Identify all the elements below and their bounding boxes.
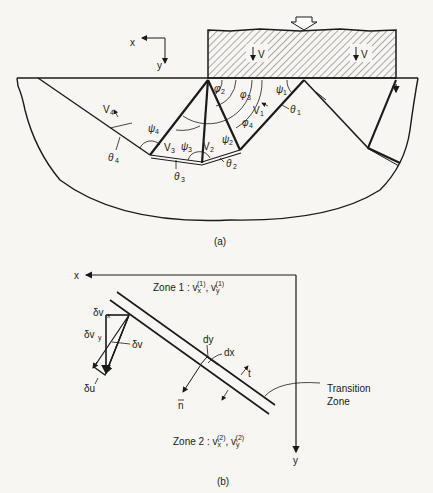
label-phi2: φ	[214, 83, 221, 94]
svg-text:1: 1	[297, 109, 301, 116]
axes-a: x y	[130, 37, 165, 71]
label-theta4: θ	[108, 152, 114, 163]
figure: V V x y	[0, 0, 433, 493]
label-t: t	[248, 368, 251, 379]
label-phi3: φ	[240, 89, 247, 100]
svg-text:4: 4	[115, 157, 119, 164]
svg-text:1: 1	[283, 89, 287, 96]
label-v3: V	[164, 142, 171, 153]
label-v2: V	[203, 141, 210, 152]
svg-text:x: x	[107, 312, 111, 319]
svg-text:4: 4	[249, 122, 253, 129]
axis-x-label-b: x	[74, 270, 79, 281]
svg-text:4: 4	[155, 128, 159, 135]
element-differential: dy dx	[200, 334, 235, 365]
svg-text:y: y	[98, 334, 102, 342]
caption-a: (a)	[214, 236, 226, 247]
velocity-jump-diagram: δv x δv y δv δu	[84, 307, 143, 394]
figure-a: V V x y	[17, 17, 418, 247]
label-phi4: φ	[242, 117, 249, 128]
footing-block: V V	[208, 29, 396, 78]
label-theta2: θ	[226, 158, 232, 169]
svg-text:3: 3	[247, 94, 251, 101]
zone1-label: Zone 1 : vx(1), vy(1)	[153, 280, 224, 295]
transition-zone-label-line2: Zone	[327, 396, 350, 407]
transition-zone-label-line1: Transition	[327, 383, 371, 394]
svg-text:3: 3	[171, 147, 175, 154]
label-dvx: δv	[93, 307, 104, 318]
svg-text:2: 2	[229, 139, 233, 146]
load-arrow-icon	[291, 17, 317, 30]
svg-text:4: 4	[110, 109, 114, 116]
svg-text:3: 3	[188, 146, 192, 153]
label-dv: δv	[132, 339, 143, 350]
transition-band	[110, 292, 275, 414]
zone2-label: Zone 2 : vx(2), vy(2)	[173, 434, 244, 449]
svg-text:2: 2	[210, 146, 214, 153]
svg-text:1: 1	[260, 110, 264, 117]
svg-text:2: 2	[221, 88, 225, 95]
axis-y-label: y	[157, 60, 162, 71]
label-n: n	[178, 400, 184, 411]
label-v1: V	[253, 105, 260, 116]
axis-x-label: x	[130, 37, 135, 48]
label-dy: dy	[203, 334, 214, 345]
footing-velocity-label-right: V	[361, 49, 368, 60]
label-dvy: δv	[84, 329, 95, 340]
figure-b: x y Zone 1 : vx(1), vy(1) Zone 2 : vx(2)…	[74, 270, 371, 487]
label-du: δu	[84, 383, 95, 394]
label-v4: V	[103, 104, 110, 115]
caption-b: (b)	[217, 476, 229, 487]
footing-velocity-label-left: V	[258, 49, 265, 60]
svg-text:3: 3	[181, 176, 185, 183]
axis-y-label-b: y	[293, 455, 298, 466]
svg-text:2: 2	[233, 163, 237, 170]
label-theta1: θ	[290, 104, 296, 115]
label-dx: dx	[224, 347, 235, 358]
label-theta3: θ	[174, 171, 180, 182]
